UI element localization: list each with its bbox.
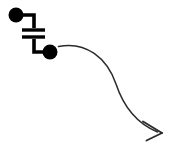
figure-canvas [0,0,171,157]
terminal-dot-top-left-icon [9,8,24,23]
background-rect [0,0,171,157]
capacitor-arrow-diagram [0,0,171,157]
terminal-dot-bottom-right-icon [43,45,58,60]
